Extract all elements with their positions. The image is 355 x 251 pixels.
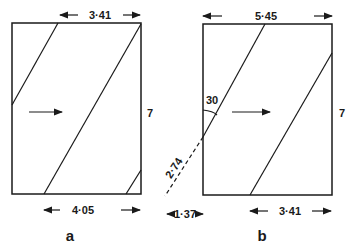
diagonal-a-3 [126,170,141,194]
diagonal-a-1 [12,23,58,105]
angle-label: 30 [206,94,218,106]
figure-b: 30 2·74 5·45 3·41 1·37 7 b [163,10,345,244]
figure-a: 3·41 4·05 7 a [12,9,153,244]
diagonal-a-2 [44,24,141,194]
top-width-label-a: 3·41 [89,9,111,21]
offset-label: 1·37 [174,208,196,220]
slant-length-label: 2·74 [163,155,186,181]
bottom-width-label-b: 3·41 [279,205,301,217]
bottom-width-label-a: 4·05 [72,204,94,216]
diagonal-b-2 [250,53,332,195]
rectangle-a [12,23,141,194]
height-label-b: 7 [339,107,345,119]
diagonal-b-1 [203,24,265,137]
diagram-canvas: 3·41 4·05 7 a 30 2·74 5·45 3·41 1·37 7 b [0,0,355,251]
rectangle-b [203,24,332,195]
height-label-a: 7 [147,107,153,119]
caption-b: b [257,227,266,244]
top-width-label-b: 5·45 [255,10,277,22]
caption-a: a [66,227,75,244]
